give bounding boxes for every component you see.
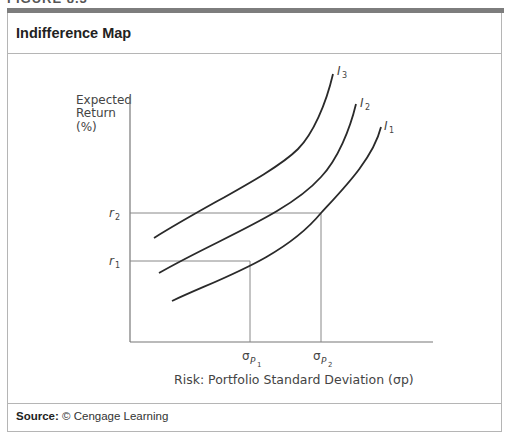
source-note: Source: © Cengage Learning <box>16 410 168 422</box>
svg-text:1: 1 <box>257 361 261 369</box>
curve-label-i2: I 2 <box>360 96 370 112</box>
y-axis-label-line-1: Expected <box>76 93 132 107</box>
x-axis-label: Risk: Portfolio Standard Deviation (σp) <box>174 372 414 387</box>
curve-label-i1: I 1 <box>384 119 394 135</box>
figure-title: Indifference Map <box>16 25 131 41</box>
source-text: © Cengage Learning <box>62 410 168 422</box>
svg-text:1: 1 <box>115 261 120 270</box>
title-row: Indifference Map <box>8 13 501 54</box>
figure-container: Indifference Map Expected Return (%) r 2… <box>7 8 502 432</box>
svg-text:1: 1 <box>389 126 394 135</box>
source-label: Source: <box>16 410 59 422</box>
x-tick-sigma-p1: σ P 1 <box>242 349 261 369</box>
svg-text:I: I <box>360 96 364 110</box>
indifference-map-chart: Expected Return (%) r 2 r 1 σ P <box>8 54 503 405</box>
svg-text:2: 2 <box>328 361 332 369</box>
y-axis-label-line-2: Return <box>76 106 116 120</box>
x-tick-sigma-p2: σ P 2 <box>313 349 332 369</box>
svg-text:P: P <box>250 356 256 366</box>
curve-label-i3: I 3 <box>337 64 347 80</box>
y-tick-r1: r 1 <box>109 254 120 270</box>
indifference-curve-i2 <box>159 104 356 273</box>
y-tick-r2: r 2 <box>109 206 120 222</box>
svg-text:I: I <box>384 119 388 133</box>
svg-text:I: I <box>337 64 341 78</box>
svg-text:2: 2 <box>365 103 370 112</box>
svg-text:P: P <box>321 356 327 366</box>
y-axis-label-line-3: (%) <box>76 120 97 134</box>
source-row: Source: © Cengage Learning <box>8 403 501 431</box>
svg-text:σ: σ <box>242 349 250 363</box>
indifference-curve-i1 <box>172 127 381 301</box>
figure-number-cut: FIGURE 8.3 <box>7 0 88 6</box>
chart-area: Expected Return (%) r 2 r 1 σ P <box>8 54 501 405</box>
svg-text:2: 2 <box>115 213 120 222</box>
svg-text:3: 3 <box>342 71 347 80</box>
svg-text:σ: σ <box>313 349 321 363</box>
